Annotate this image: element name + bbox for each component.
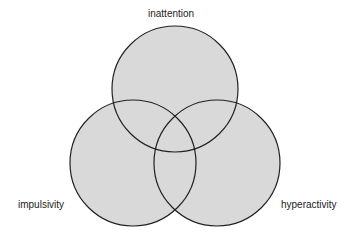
label-hyperactivity: hyperactivity bbox=[281, 199, 337, 210]
circle-hyperactivity bbox=[154, 100, 280, 226]
label-inattention: inattention bbox=[148, 8, 194, 19]
label-impulsivity: impulsivity bbox=[18, 199, 64, 210]
